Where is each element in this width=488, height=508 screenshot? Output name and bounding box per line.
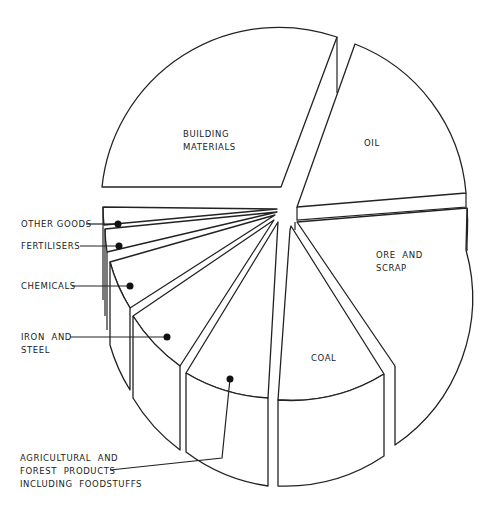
- label-agricultural: AGRICULTURAL ANDFOREST PRODUCTSINCLUDING…: [20, 452, 142, 491]
- label-oil: OIL: [364, 137, 380, 150]
- label-other-goods: OTHER GOODS: [21, 218, 92, 231]
- label-iron-and-steel: IRON ANDSTEEL: [21, 331, 72, 357]
- label-fertilisers: FERTILISERS: [21, 240, 80, 253]
- label-ore-and-scrap: ORE ANDSCRAP: [376, 249, 423, 275]
- label-coal: COAL: [311, 352, 336, 365]
- label-building-materials: BUILDINGMATERIALS: [183, 128, 236, 154]
- label-chemicals: CHEMICALS: [21, 280, 76, 293]
- slice-building-materials: [102, 27, 337, 187]
